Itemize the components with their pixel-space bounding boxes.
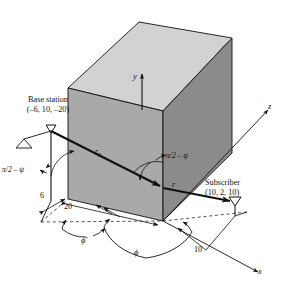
base-station-coords: (–6, 10, –20) bbox=[2, 105, 94, 114]
angle-label-psi-left: π/2 – ψ bbox=[2, 166, 24, 175]
base-station-title: Base station bbox=[2, 95, 94, 104]
path-label-r: r bbox=[172, 180, 175, 189]
diagram-svg bbox=[0, 0, 289, 285]
dimension-label-6: 6 bbox=[40, 192, 44, 201]
angle-arc-phi bbox=[104, 219, 192, 258]
dimension-10-leaders bbox=[178, 216, 235, 250]
angle-arc-psi-left-pointer bbox=[40, 170, 47, 173]
subscriber-coords: (10, 2, 10) bbox=[205, 188, 239, 197]
angle-label-phi: ϕ bbox=[134, 248, 138, 258]
axis-label-x: x bbox=[258, 267, 262, 276]
path-label-r0-sub: 0 bbox=[98, 152, 101, 158]
dimension-6 bbox=[44, 199, 65, 211]
figure-canvas: Base station (–6, 10, –20) Subscriber (1… bbox=[0, 0, 289, 285]
angle-label-phi-prime: ϕ′ bbox=[81, 236, 87, 246]
path-label-r0: r0 bbox=[95, 147, 101, 158]
subscriber-title: Subscriber bbox=[205, 178, 240, 187]
angle-label-psi-right: π/2 – ψ bbox=[166, 152, 188, 161]
dimension-label-10: 10 bbox=[194, 246, 202, 255]
axis-label-z: z bbox=[268, 102, 271, 111]
dimension-label-20: 20 bbox=[64, 203, 72, 212]
axis-label-y: y bbox=[133, 72, 137, 81]
